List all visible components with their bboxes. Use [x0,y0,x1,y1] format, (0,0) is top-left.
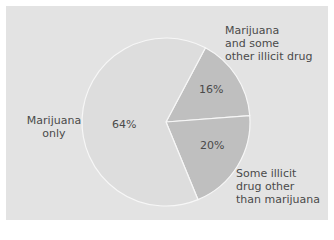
pct-other-illicit: 20% [200,139,224,152]
pct-marijuana-and-other: 16% [199,83,223,96]
label-marijuana-and-other: Marijuanaand someother illicit drug [225,24,312,63]
label-marijuana-only: Marijuanaonly [22,114,86,140]
label-other-illicit: Some illicitdrug otherthan marijuana [236,167,320,206]
pct-marijuana-only: 64% [112,118,136,131]
